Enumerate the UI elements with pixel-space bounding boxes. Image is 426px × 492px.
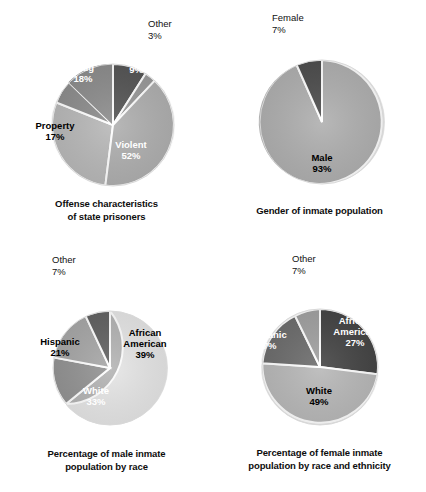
label-public-order: Public order 9% (113, 42, 159, 75)
label-public-order-pct: 9% (129, 64, 143, 75)
chart-panel-female-race: Other 7% African American 27% White 49% … (213, 246, 426, 492)
pie-gender-of-inmate-population (213, 0, 426, 205)
label-property: Property 17% (24, 120, 86, 142)
caption-male-race: Percentage of male inmate population by … (0, 448, 213, 473)
label-other-offense-name: Other (148, 18, 172, 29)
caption-gender-line1: Gender of inmate population (256, 205, 383, 216)
pie-chart-figure-grid: Other 3% Public order 9% Drug 18% Proper… (0, 0, 426, 492)
label-hispanic-male: Hispanic 21% (29, 336, 91, 358)
caption-male-race-line1: Percentage of male inmate (48, 448, 166, 459)
chart-panel-gender: Female 7% Male 93% Gender of inmate popu… (213, 0, 426, 246)
label-other-female-race-name: Other (292, 253, 316, 264)
label-white-male-pct: 33% (86, 396, 105, 407)
label-african-american-male: African American 39% (114, 327, 176, 360)
label-property-pct: 17% (45, 131, 64, 142)
label-violent: Violent 52% (105, 139, 157, 161)
caption-offense-characteristics: Offense characteristics of state prisone… (0, 198, 213, 223)
label-other-offense: Other 3% (148, 18, 172, 41)
label-african-american-female-name1: African (339, 315, 372, 326)
label-other-male-race-name: Other (52, 254, 76, 265)
label-african-american-female-pct: 27% (345, 337, 364, 348)
caption-gender: Gender of inmate population (213, 205, 426, 218)
label-male-name: Male (311, 152, 332, 163)
chart-panel-offense-characteristics: Other 3% Public order 9% Drug 18% Proper… (0, 0, 213, 246)
label-white-female-pct: 49% (309, 396, 328, 407)
label-other-male-race: Other 7% (52, 254, 76, 277)
label-african-american-male-pct: 39% (135, 349, 154, 360)
label-other-female-race: Other 7% (292, 253, 316, 276)
caption-female-race: Percentage of female inmate population b… (213, 447, 426, 472)
label-african-american-male-name2: American (123, 338, 166, 349)
label-violent-pct: 52% (121, 150, 140, 161)
label-other-female-race-pct: 7% (292, 265, 306, 276)
label-white-female-name: White (306, 385, 332, 396)
caption-offense-line2: of state prisoners (68, 211, 146, 222)
label-public-order-name2: order (124, 53, 148, 64)
label-hispanic-female: Hispanic 17% (236, 329, 298, 351)
pie-offense-characteristics (0, 0, 213, 200)
label-male-pct: 93% (312, 163, 331, 174)
chart-panel-male-race: Other 7% African American 39% White 33% … (0, 246, 213, 492)
caption-offense-line1: Offense characteristics (55, 198, 158, 209)
label-public-order-name1: Public (122, 42, 151, 53)
caption-male-race-line2: population by race (65, 461, 148, 472)
label-other-male-race-pct: 7% (52, 266, 66, 277)
label-violent-name: Violent (115, 139, 147, 150)
label-property-name: Property (35, 120, 74, 131)
label-white-female: White 49% (295, 385, 343, 407)
label-african-american-female: African American 27% (324, 315, 386, 348)
label-female-name: Female (272, 12, 304, 23)
label-female-pct: 7% (272, 24, 286, 35)
label-hispanic-female-pct: 17% (257, 340, 276, 351)
caption-female-race-line1: Percentage of female inmate (256, 447, 382, 458)
label-drug-pct: 18% (73, 73, 92, 84)
label-female: Female 7% (272, 12, 304, 35)
label-hispanic-male-pct: 21% (50, 347, 69, 358)
label-male: Male 93% (296, 152, 348, 174)
label-other-offense-pct: 3% (148, 30, 162, 41)
label-drug-name: Drug (72, 62, 94, 73)
label-hispanic-male-name: Hispanic (40, 336, 80, 347)
label-white-male: White 33% (72, 385, 120, 407)
label-hispanic-female-name: Hispanic (247, 329, 287, 340)
label-drug: Drug 18% (62, 62, 104, 84)
label-african-american-female-name2: American (333, 326, 376, 337)
label-african-american-male-name1: African (129, 327, 162, 338)
caption-female-race-line2: population by race and ethnicity (248, 460, 391, 471)
label-white-male-name: White (83, 385, 109, 396)
